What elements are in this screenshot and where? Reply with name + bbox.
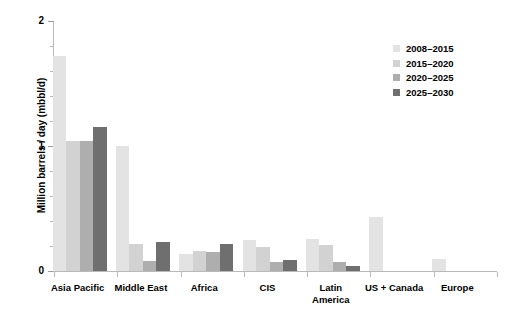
x-category-label: Africa [173,282,236,294]
legend-item[interactable]: 2020–2025 [393,71,454,84]
x-category-label: CIS [236,282,299,294]
bar [143,261,157,271]
legend-swatch-icon [393,60,400,67]
x-category-label: Europe [426,282,489,294]
bar [243,240,257,271]
x-category-label: US + Canada [362,282,425,294]
bar [256,247,270,271]
legend-item[interactable]: 2025–2030 [393,86,454,99]
legend-swatch-icon [393,74,400,81]
bar [369,217,383,271]
bar [156,242,170,271]
x-tick [370,272,371,277]
legend: 2008–20152015–20202020–20252025–2030 [393,42,454,100]
x-category-label: Asia Pacific [46,282,109,294]
bar [116,146,130,271]
bar [193,251,207,271]
bar [270,262,284,271]
legend-item[interactable]: 2015–2020 [393,57,454,70]
legend-label: 2015–2020 [406,58,454,69]
bar [220,244,234,272]
bar [319,245,333,271]
y-tick-label: 1 [0,141,44,151]
legend-swatch-icon [393,89,400,96]
x-tick [117,272,118,277]
legend-label: 2025–2030 [406,87,454,98]
bar [80,141,94,271]
bar [432,259,446,272]
bar [129,244,143,272]
x-tick [307,272,308,277]
legend-label: 2020–2025 [406,72,454,83]
bar [306,239,320,272]
bar [206,252,220,271]
bar [93,127,107,271]
y-tick-label: 2 [0,16,44,26]
bar [66,141,80,271]
x-axis-line [53,271,497,272]
bar-chart: Million barrels / day (mbbl/d) 012 Asia … [0,0,505,323]
legend-item[interactable]: 2008–2015 [393,42,454,55]
legend-swatch-icon [393,45,400,52]
x-tick [244,272,245,277]
x-tick [54,272,55,277]
y-tick-label: 0 [0,266,44,276]
bar [346,266,360,271]
bar [53,56,67,271]
bar [333,262,347,271]
x-tick [497,272,498,277]
legend-label: 2008–2015 [406,43,454,54]
x-tick [434,272,435,277]
x-category-label: Middle East [109,282,172,294]
bar [283,260,297,271]
x-tick [181,272,182,277]
bar [179,254,193,272]
x-category-label: Latin America [299,282,362,305]
